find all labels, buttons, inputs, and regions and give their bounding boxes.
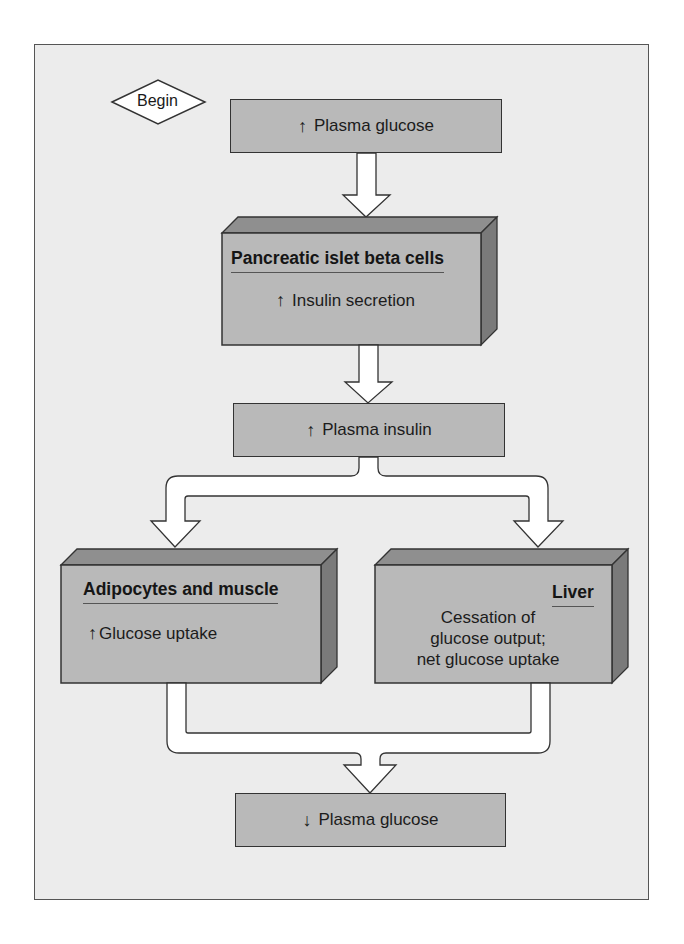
- up-arrow-icon: ↑: [88, 623, 97, 643]
- liver-body: Cessation of glucose output; net glucose…: [388, 607, 588, 670]
- up-arrow-icon: ↑: [306, 420, 315, 441]
- insulin-secretion-label: Insulin secretion: [292, 291, 415, 310]
- beta-cells-body: ↑Insulin secretion: [276, 290, 415, 311]
- glucose-uptake-label: Glucose uptake: [99, 624, 217, 643]
- adipocytes-title: Adipocytes and muscle: [83, 579, 278, 604]
- plasma-insulin-label: Plasma insulin: [322, 420, 432, 440]
- arrow-insulin-split: [151, 457, 563, 547]
- liver-line-1: Cessation of: [388, 607, 588, 628]
- liver-line-3: net glucose uptake: [388, 649, 588, 670]
- adipocytes-box-3d: [61, 549, 337, 683]
- down-arrow-icon: ↓: [302, 810, 311, 831]
- plasma-insulin-increase-box: ↑ Plasma insulin: [233, 403, 505, 457]
- plasma-glucose-increase-box: ↑ Plasma glucose: [230, 99, 502, 153]
- liver-title: Liver: [552, 582, 594, 607]
- arrow-glucose-to-beta-cells: [343, 153, 390, 217]
- up-arrow-icon: ↑: [276, 290, 285, 310]
- adipocytes-body: ↑Glucose uptake: [88, 623, 217, 644]
- beta-cells-title: Pancreatic islet beta cells: [231, 248, 444, 273]
- arrow-merge-to-glucose-down: [167, 683, 550, 793]
- liver-line-2: glucose output;: [388, 628, 588, 649]
- plasma-glucose-down-label: Plasma glucose: [318, 810, 438, 830]
- begin-label: Begin: [137, 92, 178, 110]
- plasma-glucose-label: Plasma glucose: [314, 116, 434, 136]
- arrow-beta-cells-to-insulin: [345, 345, 392, 403]
- up-arrow-icon: ↑: [298, 116, 307, 137]
- plasma-glucose-decrease-box: ↓ Plasma glucose: [235, 793, 506, 847]
- beta-cells-box-3d: [222, 217, 497, 345]
